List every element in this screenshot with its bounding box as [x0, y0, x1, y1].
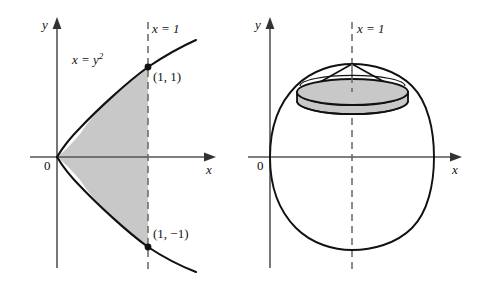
origin-label-left: 0: [44, 159, 51, 172]
curve-equation-exponent: 2: [99, 51, 104, 61]
y-axis-label-right: y: [255, 18, 261, 31]
point-marker-1-1: [145, 64, 152, 71]
point-marker-1-minus1: [145, 244, 152, 251]
point-label-1-minus1: (1, −1): [153, 227, 189, 240]
axis-of-revolution-label-right: x = 1: [357, 22, 385, 35]
calculus-figure: [0, 0, 497, 284]
curve-equation-base: x = y: [72, 52, 99, 67]
curve-equation-label-left: x = y2: [72, 52, 103, 66]
vertical-line-label-left: x = 1: [152, 22, 180, 35]
x-axis-label-right: x: [452, 163, 458, 176]
point-label-1-1: (1, 1): [153, 70, 181, 83]
x-axis-label-left: x: [206, 163, 212, 176]
y-axis-label-left: y: [42, 18, 48, 31]
origin-label-right: 0: [257, 159, 264, 172]
